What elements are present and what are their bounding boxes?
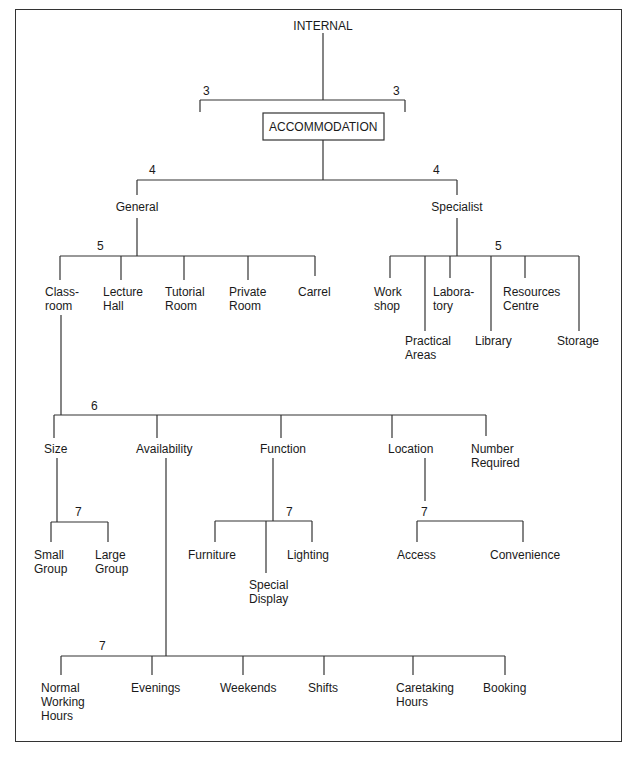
node-carrel: Carrel — [298, 285, 331, 299]
node-evenings: Evenings — [131, 681, 180, 695]
level-number-6: 6 — [91, 399, 98, 413]
node-general: General — [116, 200, 159, 214]
node-tutorial-room: Tutorial Room — [165, 285, 205, 313]
node-practical-areas: Practical Areas — [405, 334, 451, 362]
node-size: Size — [44, 442, 67, 456]
node-function: Function — [260, 442, 306, 456]
node-normal-working-hours: Normal Working Hours — [41, 681, 85, 723]
node-lighting: Lighting — [287, 548, 329, 562]
node-private-room: Private Room — [229, 285, 266, 313]
level-number-5-specialist: 5 — [495, 239, 502, 253]
node-classroom: Class- room — [45, 285, 79, 313]
node-accommodation: ACCOMMODATION — [269, 120, 377, 134]
node-small-group: Small Group — [34, 548, 67, 576]
node-resources-centre: Resources Centre — [503, 285, 560, 313]
level-number-4-right: 4 — [433, 163, 440, 177]
level-number-3-right: 3 — [393, 84, 400, 98]
node-shifts: Shifts — [308, 681, 338, 695]
node-location: Location — [388, 442, 433, 456]
node-large-group: Large Group — [95, 548, 128, 576]
node-specialist: Specialist — [431, 200, 482, 214]
node-booking: Booking — [483, 681, 526, 695]
level-number-3-left: 3 — [203, 84, 210, 98]
node-availability: Availability — [136, 442, 192, 456]
node-caretaking-hours: Caretaking Hours — [396, 681, 454, 709]
node-furniture: Furniture — [188, 548, 236, 562]
node-library: Library — [475, 334, 512, 348]
level-number-7-function: 7 — [286, 505, 293, 519]
level-number-7-size: 7 — [75, 505, 82, 519]
node-workshop: Work shop — [374, 285, 402, 313]
node-special-display: Special Display — [249, 578, 288, 606]
node-access: Access — [397, 548, 436, 562]
tree-connector-lines — [0, 0, 637, 757]
node-lecture-hall: Lecture Hall — [103, 285, 143, 313]
node-weekends: Weekends — [220, 681, 276, 695]
level-number-5-general: 5 — [97, 239, 104, 253]
node-convenience: Convenience — [490, 548, 560, 562]
node-number-required: Number Required — [471, 442, 520, 470]
node-internal: INTERNAL — [293, 19, 352, 33]
level-number-7-location: 7 — [421, 505, 428, 519]
node-storage: Storage — [557, 334, 599, 348]
node-laboratory: Labora- tory — [433, 285, 474, 313]
level-number-4-left: 4 — [149, 163, 156, 177]
level-number-7-availability: 7 — [99, 639, 106, 653]
